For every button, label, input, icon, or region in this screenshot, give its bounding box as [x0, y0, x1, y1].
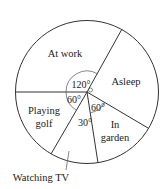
label-watching-tv: Watching TV [13, 172, 70, 183]
label-playing-golf-line1: Playing [28, 105, 61, 116]
label-asleep: Asleep [111, 76, 140, 87]
label-in-garden-line1: In [111, 119, 120, 130]
label-at-work: At work [48, 48, 83, 59]
label-playing-golf-line2: golf [36, 118, 53, 129]
angle-label-tv: 30° [78, 117, 92, 128]
label-in-garden-line2: garden [101, 132, 130, 143]
angle-label-golf: 60° [67, 94, 81, 105]
pie-chart: At work Asleep Playing golf In garden 12… [0, 0, 168, 189]
angle-label-at-work: 120° [72, 79, 91, 90]
angle-label-garden: 60° [91, 102, 105, 113]
